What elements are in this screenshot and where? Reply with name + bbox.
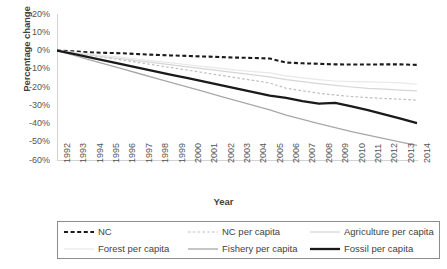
y-axis-tick-label: 10% (10, 27, 50, 38)
x-axis-tick-label: 2011 (372, 133, 384, 163)
y-axis-tick-label: -30% (10, 100, 50, 111)
x-axis-tick-label: 1995 (110, 133, 122, 163)
x-axis-tick-label: 2012 (388, 133, 400, 163)
chart-plot-region: Percentage change 20%10%0%-10%-20%-30%-4… (0, 0, 447, 200)
y-axis-tick-label: -40% (10, 118, 50, 129)
x-axis-tick-label: 1999 (176, 133, 188, 163)
x-axis-tick-label: 2007 (306, 133, 318, 163)
x-axis-tick-label: 2001 (208, 133, 220, 163)
x-axis-tick-label: 1997 (143, 133, 155, 163)
x-axis-tick-label: 2014 (421, 133, 433, 163)
legend-swatch-icon (310, 227, 340, 237)
legend-item[interactable]: Agriculture per capita (310, 224, 434, 239)
x-axis-tick-label: 2004 (257, 133, 269, 163)
y-axis-tick-label: -10% (10, 63, 50, 74)
x-axis-title: Year (0, 196, 447, 207)
y-axis-tick-label: 0% (10, 45, 50, 56)
legend-item[interactable]: Forest per capita (64, 241, 169, 256)
legend-row-2: Forest per capitaFishery per capitaFossi… (58, 241, 441, 256)
series-line-fossil-per-capita (57, 51, 417, 124)
y-axis-tick-label: -50% (10, 136, 50, 147)
legend-item[interactable]: Fishery per capita (188, 241, 298, 256)
y-axis-tick-label: -20% (10, 82, 50, 93)
legend-swatch-icon (64, 227, 94, 237)
legend-label: Fossil per capita (344, 244, 413, 254)
legend-item[interactable]: NC per capita (188, 224, 280, 239)
legend-item[interactable]: NC (64, 224, 112, 239)
x-axis-tick-label: 1994 (94, 133, 106, 163)
x-axis-tick-label: 1993 (77, 133, 89, 163)
x-axis-tick-label: 2000 (192, 133, 204, 163)
y-axis-tick-label: 20% (10, 9, 50, 20)
legend-label: Fishery per capita (222, 244, 298, 254)
x-axis-tick-label: 1992 (61, 133, 73, 163)
x-axis-tick-label: 2003 (241, 133, 253, 163)
legend-swatch-icon (188, 244, 218, 254)
x-axis-tick-label: 2010 (356, 133, 368, 163)
legend-label: NC (98, 227, 112, 237)
x-axis-tick-label: 2002 (225, 133, 237, 163)
chart-legend: NCNC per capitaAgriculture per capita Fo… (57, 221, 440, 259)
chart-figure: Percentage change 20%10%0%-10%-20%-30%-4… (0, 0, 447, 269)
legend-swatch-icon (310, 244, 340, 254)
y-axis-tick-label: -60% (10, 155, 50, 166)
x-axis-tick-label: 2013 (405, 133, 417, 163)
x-axis-tick-label: 2006 (290, 133, 302, 163)
legend-label: NC per capita (222, 227, 280, 237)
legend-swatch-icon (64, 244, 94, 254)
series-line-forest-per-capita (57, 51, 417, 85)
legend-label: Forest per capita (98, 244, 169, 254)
x-axis-tick-label: 2008 (323, 133, 335, 163)
x-axis-tick-label: 1996 (126, 133, 138, 163)
legend-swatch-icon (188, 227, 218, 237)
x-axis-tick-label: 2009 (339, 133, 351, 163)
x-axis-tick-label: 2005 (274, 133, 286, 163)
legend-label: Agriculture per capita (344, 227, 434, 237)
x-axis-tick-label: 1998 (159, 133, 171, 163)
legend-row-1: NCNC per capitaAgriculture per capita (58, 224, 441, 239)
legend-item[interactable]: Fossil per capita (310, 241, 413, 256)
